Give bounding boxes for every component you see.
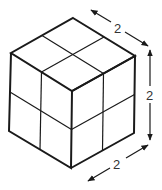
cube-diagram: 2 2 2 xyxy=(0,0,162,190)
cube-right-face xyxy=(71,56,135,168)
dimension-width-label: 2 xyxy=(113,157,120,172)
dimension-depth-label: 2 xyxy=(114,21,121,36)
dimension-height-label: 2 xyxy=(146,88,153,103)
